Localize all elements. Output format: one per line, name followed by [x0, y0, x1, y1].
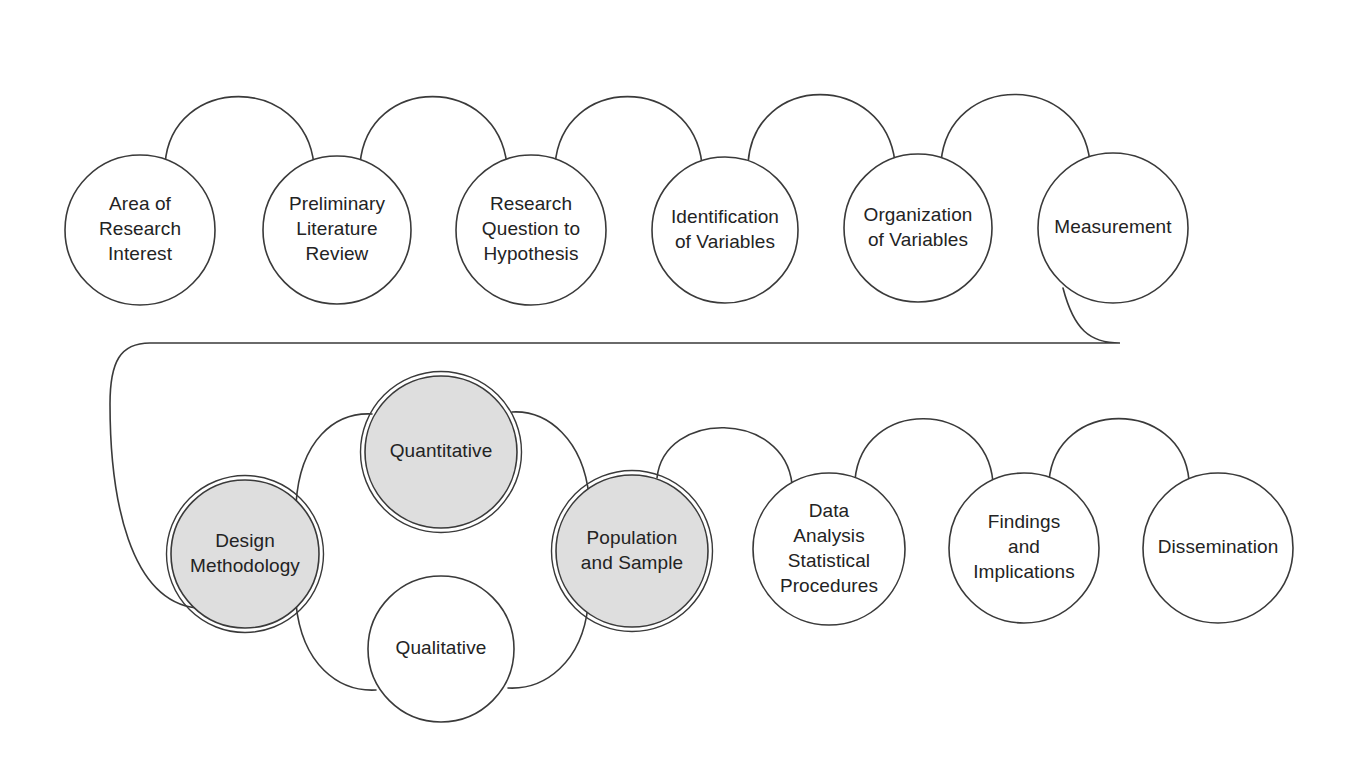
row-one: Area ofResearchInterestPreliminaryLitera… — [65, 153, 1188, 305]
node-label-research-question-to-hypothesis: ResearchQuestion toHypothesis — [482, 193, 580, 264]
node-label-line: Findings — [988, 511, 1061, 532]
node-label-line: Organization — [864, 204, 973, 225]
link-question-to-identification — [555, 97, 702, 165]
node-research-question-to-hypothesis[interactable]: ResearchQuestion toHypothesis — [456, 155, 606, 305]
link-preliminary-to-question — [360, 97, 507, 165]
node-label-line: Quantitative — [390, 440, 493, 461]
node-label-line: Implications — [973, 561, 1075, 582]
node-label-line: Measurement — [1054, 216, 1172, 237]
node-design-methodology[interactable]: DesignMethodology — [167, 476, 324, 633]
research-process-diagram: Area ofResearchInterestPreliminaryLitera… — [0, 0, 1356, 757]
nodes-layer: Area ofResearchInterestPreliminaryLitera… — [65, 153, 1293, 722]
node-data-analysis-statistical-procedures[interactable]: DataAnalysisStatisticalProcedures — [753, 473, 905, 625]
node-label-line: Interest — [108, 243, 173, 264]
link-organization-to-measurement — [941, 95, 1090, 163]
link-quantitative-to-population — [512, 412, 589, 496]
node-label-dissemination: Dissemination — [1158, 536, 1279, 557]
link-area-to-preliminary — [165, 97, 314, 165]
node-label-measurement: Measurement — [1054, 216, 1172, 237]
node-population-and-sample[interactable]: Populationand Sample — [552, 471, 713, 632]
node-qualitative[interactable]: Qualitative — [368, 576, 514, 722]
node-label-line: Area of — [109, 193, 172, 214]
node-quantitative[interactable]: Quantitative — [361, 372, 522, 533]
node-dissemination[interactable]: Dissemination — [1143, 473, 1293, 623]
node-label-line: of Variables — [675, 231, 775, 252]
link-qualitative-to-population — [508, 606, 588, 688]
node-label-line: Preliminary — [289, 193, 386, 214]
link-data-to-findings — [855, 419, 993, 482]
node-label-line: Research — [99, 218, 181, 239]
node-label-line: Question to — [482, 218, 580, 239]
node-label-line: Statistical — [788, 550, 870, 571]
node-label-line: of Variables — [868, 229, 968, 250]
node-label-line: Review — [306, 243, 369, 264]
node-label-line: Dissemination — [1158, 536, 1279, 557]
node-identification-of-variables[interactable]: Identificationof Variables — [652, 157, 798, 303]
node-label-quantitative: Quantitative — [390, 440, 493, 461]
node-label-line: and Sample — [581, 552, 683, 573]
node-label-line: Identification — [671, 206, 779, 227]
node-label-line: and — [1008, 536, 1040, 557]
node-preliminary-literature-review[interactable]: PreliminaryLiteratureReview — [263, 156, 411, 304]
node-organization-of-variables[interactable]: Organizationof Variables — [844, 154, 992, 302]
node-label-line: Hypothesis — [484, 243, 579, 264]
node-label-line: Qualitative — [396, 637, 487, 658]
node-label-line: Methodology — [190, 555, 300, 576]
node-label-area-of-research-interest: Area ofResearchInterest — [99, 193, 181, 264]
flow-diagram-canvas: Area ofResearchInterestPreliminaryLitera… — [0, 0, 1356, 757]
node-label-line: Procedures — [780, 575, 878, 596]
row-two: DesignMethodologyQuantitativeQualitative… — [167, 372, 1294, 723]
node-label-line: Design — [215, 530, 275, 551]
node-label-line: Research — [490, 193, 572, 214]
node-findings-and-implications[interactable]: FindingsandImplications — [949, 473, 1099, 623]
node-label-line: Population — [587, 527, 678, 548]
node-label-line: Data — [809, 500, 850, 521]
node-area-of-research-interest[interactable]: Area ofResearchInterest — [65, 155, 215, 305]
link-findings-to-dissemination — [1049, 419, 1189, 481]
link-population-to-data — [657, 428, 792, 484]
node-label-line: Literature — [296, 218, 377, 239]
link-identification-to-organization — [748, 95, 895, 163]
link-design-to-qualitative — [296, 604, 376, 690]
node-label-line: Analysis — [793, 525, 865, 546]
node-label-qualitative: Qualitative — [396, 637, 487, 658]
node-measurement[interactable]: Measurement — [1038, 153, 1188, 303]
